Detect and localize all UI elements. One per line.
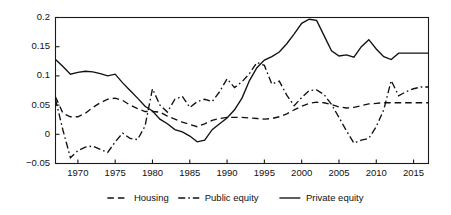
plot-frame	[56, 18, 429, 164]
x-tick-label: 1995	[254, 167, 275, 178]
chart-figure: −0.0500.050.10.150.2 1970197519801985199…	[0, 0, 451, 215]
y-tick-label: 0.05	[32, 99, 51, 110]
y-tick-label: 0	[45, 128, 50, 139]
y-tick-label: 0.15	[32, 40, 51, 51]
chart-legend: HousingPublic equityPrivate equity	[107, 192, 363, 203]
x-tick-label: 2000	[291, 167, 312, 178]
series-line-public-equity	[56, 62, 429, 157]
x-tick-label: 1980	[142, 167, 163, 178]
legend-label-housing: Housing	[134, 192, 169, 203]
y-tick-label: −0.05	[26, 157, 50, 168]
x-tick-label: 2005	[328, 167, 349, 178]
legend-label-public-equity: Public equity	[205, 192, 259, 203]
y-tick-label: 0.1	[37, 69, 50, 80]
legend-label-private-equity: Private equity	[306, 192, 364, 203]
series-lines	[56, 19, 429, 157]
x-tick-label: 2015	[403, 167, 424, 178]
y-axis-tick-labels: −0.0500.050.10.150.2	[26, 11, 50, 168]
series-line-private-equity	[56, 19, 429, 142]
x-axis-ticks	[78, 160, 414, 164]
x-tick-label: 1990	[217, 167, 238, 178]
y-axis-ticks	[56, 18, 60, 164]
x-tick-label: 1985	[179, 167, 200, 178]
x-axis-tick-labels: 1970197519801985199019952000200520102015	[67, 167, 424, 178]
line-chart: −0.0500.050.10.150.2 1970197519801985199…	[0, 0, 451, 215]
x-tick-label: 1970	[67, 167, 88, 178]
x-tick-label: 1975	[105, 167, 126, 178]
series-line-housing	[56, 97, 429, 127]
y-tick-label: 0.2	[37, 11, 50, 22]
x-tick-label: 2010	[366, 167, 387, 178]
